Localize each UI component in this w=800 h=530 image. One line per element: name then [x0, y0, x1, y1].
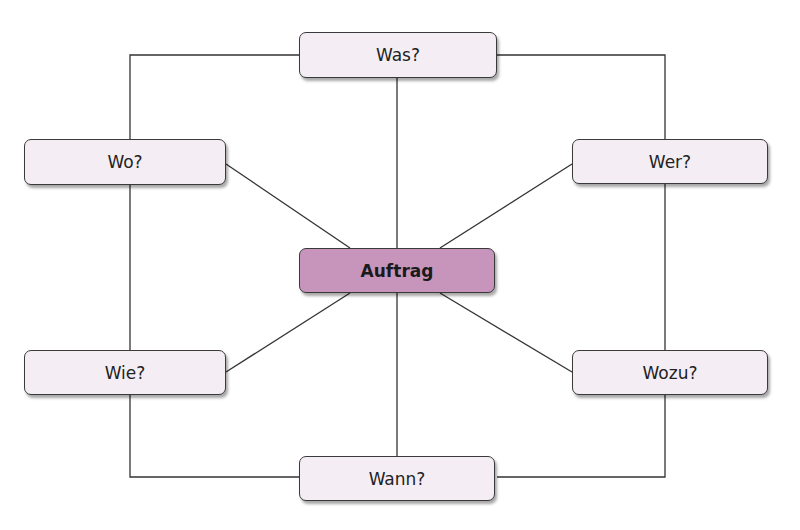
node-wie: Wie?	[24, 350, 226, 395]
node-label: Wer?	[649, 152, 691, 172]
node-label: Wie?	[105, 363, 146, 383]
node-wann: Wann?	[299, 456, 495, 501]
node-wer: Wer?	[572, 139, 768, 184]
node-label: Wann?	[369, 469, 426, 489]
node-label: Auftrag	[361, 261, 434, 281]
node-wo: Wo?	[24, 139, 226, 185]
node-label: Wozu?	[643, 363, 698, 383]
node-auftrag: Auftrag	[299, 248, 495, 293]
node-was: Was?	[299, 32, 497, 78]
node-label: Wo?	[107, 152, 142, 172]
node-label: Was?	[376, 45, 420, 65]
node-wozu: Wozu?	[572, 350, 768, 395]
